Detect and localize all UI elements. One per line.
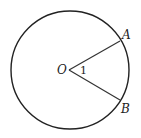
label-point-a: A	[121, 28, 131, 42]
label-center-o: O	[57, 63, 67, 77]
radius-ob	[69, 70, 120, 100]
circle-diagram: O 1 A B	[0, 0, 141, 138]
radius-oa	[69, 41, 120, 70]
label-point-b: B	[120, 102, 130, 116]
label-angle-1: 1	[80, 64, 87, 77]
